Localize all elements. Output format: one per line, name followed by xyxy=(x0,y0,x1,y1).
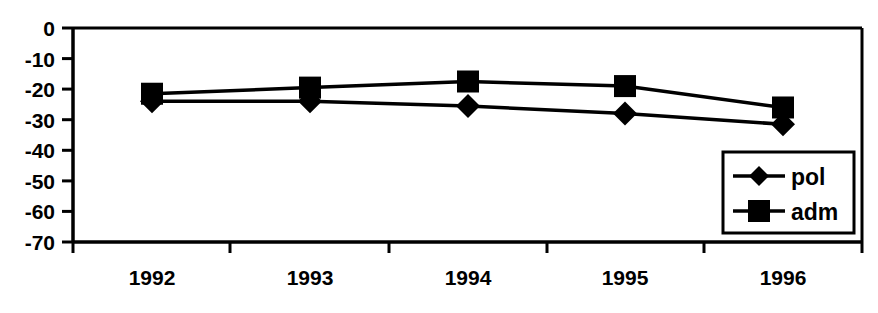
x-tick-label-1995: 1995 xyxy=(602,266,649,289)
data-point-adm-1992 xyxy=(141,83,163,105)
data-point-adm-1996 xyxy=(772,96,794,118)
x-tick-label-1992: 1992 xyxy=(129,266,176,289)
y-tick-label-minus60: -60 xyxy=(25,200,55,223)
x-tick-label-1994: 1994 xyxy=(445,266,492,289)
legend-label-adm: adm xyxy=(791,199,838,225)
y-axis-tick-labels: 0 -10 -20 -30 -40 -50 -60 -70 xyxy=(25,17,55,254)
legend-label-pol: pol xyxy=(791,164,826,190)
y-tick-label-minus50: -50 xyxy=(25,170,55,193)
chart-legend: pol adm xyxy=(723,152,854,233)
y-tick-label-minus20: -20 xyxy=(25,78,55,101)
data-point-adm-1994 xyxy=(457,71,479,93)
x-tick-label-1993: 1993 xyxy=(287,266,334,289)
y-tick-label-minus40: -40 xyxy=(25,139,55,162)
y-tick-label-minus10: -10 xyxy=(25,48,55,71)
line-chart: 0 -10 -20 -30 -40 -50 -60 -70 1992 1993 … xyxy=(0,0,878,313)
chart-canvas: 0 -10 -20 -30 -40 -50 -60 -70 1992 1993 … xyxy=(0,0,878,313)
square-marker xyxy=(748,200,770,222)
y-tick-label-minus70: -70 xyxy=(25,231,55,254)
data-point-adm-1995 xyxy=(614,75,636,97)
x-axis-tick-labels: 1992 1993 1994 1995 1996 xyxy=(129,266,807,289)
y-tick-label-minus30: -30 xyxy=(25,109,55,132)
x-tick-label-1996: 1996 xyxy=(760,266,807,289)
data-point-adm-1993 xyxy=(299,77,321,99)
y-tick-label-0: 0 xyxy=(43,17,55,40)
